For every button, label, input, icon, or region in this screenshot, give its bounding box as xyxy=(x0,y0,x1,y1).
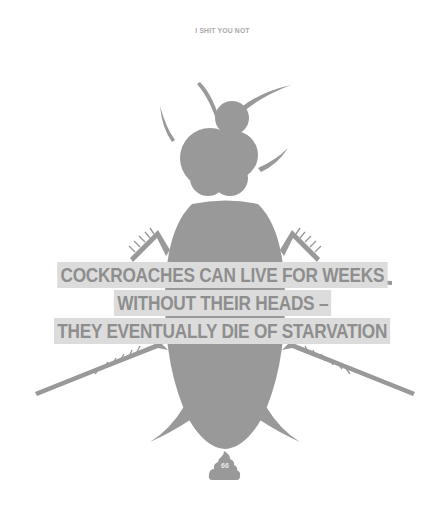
antenna-right-icon xyxy=(240,85,291,112)
antenna-right-low-icon xyxy=(258,148,288,172)
fact-line-2: WITHOUT THEIR HEADS – xyxy=(0,290,445,316)
page-number: 66 xyxy=(213,462,237,469)
cockroach-illustration xyxy=(0,0,445,515)
antenna-left-low-icon xyxy=(160,106,175,142)
fact-line-1: COCKROACHES CAN LIVE FOR WEEKS xyxy=(0,262,445,288)
fact-line-3: THEY EVENTUALLY DIE OF STARVATION xyxy=(0,318,445,344)
